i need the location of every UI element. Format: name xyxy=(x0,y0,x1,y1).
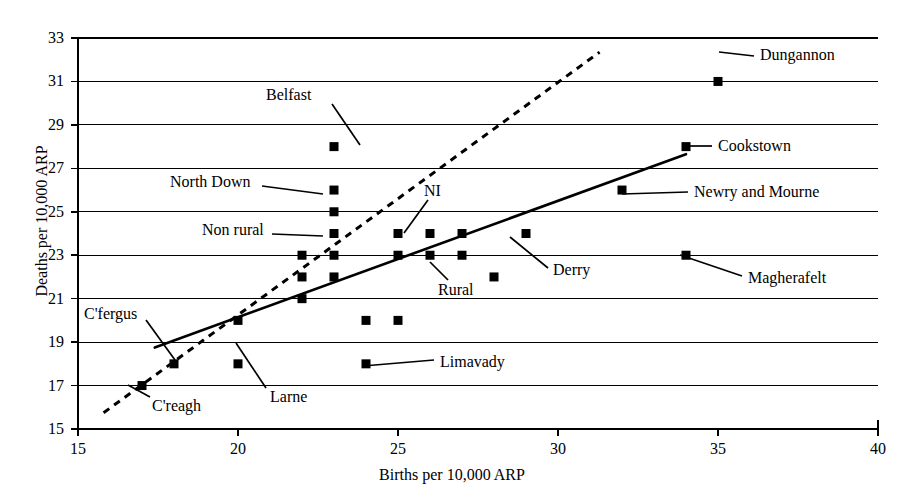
data-point-9[interactable] xyxy=(330,207,339,216)
point-label-newry-and-mourne: Newry and Mourne xyxy=(694,183,819,200)
data-point-20[interactable] xyxy=(458,229,467,238)
point-label-cfergus: C'fergus xyxy=(84,305,137,322)
data-point-21[interactable] xyxy=(458,251,467,260)
x-tick-label-35: 35 xyxy=(698,441,738,457)
data-point-c-reagh[interactable] xyxy=(138,381,147,390)
axis-lines-group xyxy=(78,38,878,429)
data-point-north-down[interactable] xyxy=(330,186,339,195)
x-tick-label-30: 30 xyxy=(538,441,578,457)
x-tick-label-40: 40 xyxy=(858,441,898,457)
data-point-magherafelt[interactable] xyxy=(682,251,691,260)
axis-ticks-group xyxy=(71,38,878,436)
point-label-belfast: Belfast xyxy=(266,86,311,103)
point-label-limavady: Limavady xyxy=(440,353,505,370)
leader-line-non-rural xyxy=(272,234,323,236)
point-label-non-rural: Non rural xyxy=(202,221,264,238)
x-tick-label-25: 25 xyxy=(378,441,418,457)
data-point-12[interactable] xyxy=(330,272,339,281)
y-tick-label-15: 15 xyxy=(30,421,64,437)
leader-line-derry xyxy=(510,237,548,268)
data-point-6[interactable] xyxy=(298,251,307,260)
plot-canvas xyxy=(0,0,904,495)
point-label-rural: Rural xyxy=(438,281,474,298)
point-label-creagh: C'reagh xyxy=(152,397,201,414)
x-tick-label-15: 15 xyxy=(58,441,98,457)
leader-line-north-down xyxy=(262,186,323,194)
data-point-c-fergus[interactable] xyxy=(170,359,179,368)
point-label-dungannon: Dungannon xyxy=(760,46,835,63)
point-label-north-down: North Down xyxy=(170,173,250,190)
gridlines-group xyxy=(78,81,878,385)
y-axis-title: Deaths per 10,000 ARP xyxy=(33,91,51,351)
data-point-17[interactable] xyxy=(394,316,403,325)
leader-line-rural xyxy=(430,262,448,280)
scatter-chart-figure: 15171921232527293133152025303540 Belfast… xyxy=(0,0,904,495)
data-point-5[interactable] xyxy=(298,272,307,281)
point-label-ni: NI xyxy=(424,182,441,199)
point-label-derry: Derry xyxy=(553,261,590,278)
data-point-4[interactable] xyxy=(298,294,307,303)
y-tick-label-17: 17 xyxy=(30,378,64,394)
data-point-newry-and-mourne[interactable] xyxy=(618,186,627,195)
leader-line-ni xyxy=(404,200,428,233)
y-tick-label-33: 33 xyxy=(30,30,64,46)
x-axis-title: Births per 10,000 ARP xyxy=(0,466,904,484)
data-point-13[interactable] xyxy=(362,316,371,325)
leader-line-limavady xyxy=(363,360,434,366)
leader-line-dungannon xyxy=(719,52,754,56)
data-point-ni[interactable] xyxy=(394,229,403,238)
data-point-2[interactable] xyxy=(234,316,243,325)
data-point-larne[interactable] xyxy=(234,359,243,368)
point-label-larne: Larne xyxy=(270,388,307,405)
leader-line-newry-and-mourne xyxy=(622,192,688,194)
x-tick-label-20: 20 xyxy=(218,441,258,457)
data-point-derry[interactable] xyxy=(522,229,531,238)
data-point-belfast[interactable] xyxy=(330,142,339,151)
data-point-limavady[interactable] xyxy=(362,359,371,368)
point-label-magherafelt: Magherafelt xyxy=(748,269,826,286)
point-label-cookstown: Cookstown xyxy=(718,137,791,154)
y-tick-label-31: 31 xyxy=(30,73,64,89)
data-point-11[interactable] xyxy=(330,251,339,260)
data-point-rural[interactable] xyxy=(426,251,435,260)
data-point-22[interactable] xyxy=(490,272,499,281)
data-point-18[interactable] xyxy=(426,229,435,238)
data-point-16[interactable] xyxy=(394,251,403,260)
data-point-dungannon[interactable] xyxy=(714,77,723,86)
leader-line-cfergus xyxy=(146,320,175,360)
data-point-cookstown[interactable] xyxy=(682,142,691,151)
data-point-non-rural[interactable] xyxy=(330,229,339,238)
